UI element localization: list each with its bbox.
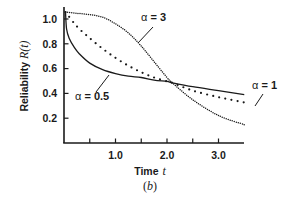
x-tick-label: 3.0 <box>211 149 226 161</box>
figure-caption: (b) <box>143 179 157 193</box>
leader-alpha-1 <box>255 94 263 106</box>
y-tick-label: 1.0 <box>42 13 57 25</box>
series-line-alpha-3 <box>66 12 245 125</box>
label-alpha-1: α = 1 <box>252 79 277 91</box>
x-axis-title: Timet <box>134 164 166 178</box>
label-alpha-0.5: α = 0.5 <box>75 90 109 102</box>
y-tick-label: 0.8 <box>42 38 57 50</box>
leader-alpha-3 <box>138 27 153 43</box>
series-lines <box>66 12 245 125</box>
x-tick-label: 1.0 <box>108 149 123 161</box>
axes <box>63 7 244 143</box>
y-tick-label: 0.2 <box>42 112 57 124</box>
x-ticks: 1.02.03.0 <box>90 139 226 162</box>
y-tick-label: 0.6 <box>42 62 57 74</box>
x-tick-label: 2.0 <box>160 149 175 161</box>
series-line-alpha-1 <box>66 12 245 102</box>
reliability-chart: 0.20.40.60.81.0 1.02.03.0 Reliability R(… <box>0 0 295 203</box>
series-line-alpha-0.5 <box>66 12 245 95</box>
y-tick-label: 0.4 <box>42 87 57 99</box>
label-alpha-3: α = 3 <box>141 11 166 23</box>
y-axis-title: Reliability R(t) <box>17 40 31 111</box>
